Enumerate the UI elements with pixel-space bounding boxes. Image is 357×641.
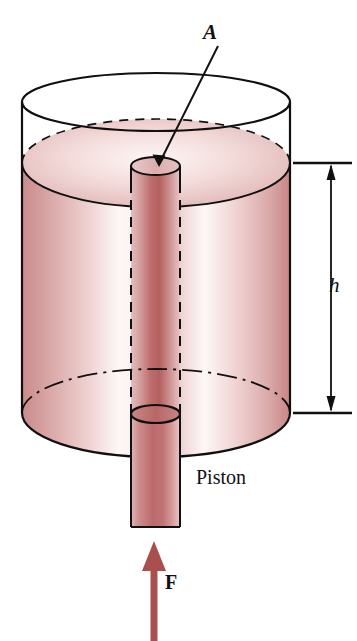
height-label: h — [329, 275, 340, 296]
force-label: F — [165, 572, 177, 592]
rod-shaft-fill — [131, 166, 180, 414]
force-arrow — [142, 541, 166, 641]
piston-rod-upper — [131, 157, 180, 414]
piston-assembly-lower — [131, 405, 180, 527]
force-arrowhead — [142, 541, 166, 571]
diagram-canvas — [0, 0, 357, 641]
area-label: A — [203, 22, 217, 43]
dimension-arrowhead-top — [327, 164, 336, 180]
lower-rod-fill — [131, 414, 180, 527]
dimension-arrowhead-bottom — [327, 396, 336, 412]
height-dimension — [293, 163, 352, 413]
physics-diagram: A h Piston F — [0, 0, 357, 641]
piston-label: Piston — [196, 467, 246, 487]
piston-head-disc — [131, 405, 180, 423]
